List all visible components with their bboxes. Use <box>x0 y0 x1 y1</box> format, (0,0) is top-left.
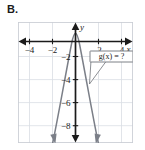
graph-svg: −4 −2 2 4 −2 −4 −6 −8 y x g(x) = ? <box>18 22 133 143</box>
y-tick-label: −6 <box>61 98 71 108</box>
x-tick-label: −4 <box>25 45 35 55</box>
y-tick-label: −4 <box>61 75 71 85</box>
coordinate-plane: −4 −2 2 4 −2 −4 −6 −8 y x g(x) = ? <box>18 22 133 143</box>
callout-label: g(x) = ? <box>99 52 125 61</box>
figure-panel: B. <box>0 0 145 150</box>
part-label: B. <box>7 3 18 15</box>
y-tick-label: −2 <box>61 52 71 62</box>
y-tick-label: −8 <box>61 121 71 131</box>
y-axis-label: y <box>79 22 84 32</box>
x-tick-label: −2 <box>48 45 58 55</box>
